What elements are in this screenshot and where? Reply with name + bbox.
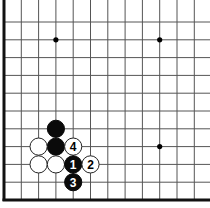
black-stone-circle — [47, 120, 64, 137]
white-stone — [30, 156, 47, 173]
white-stone — [47, 156, 64, 173]
black-stone-1: 1 — [65, 156, 82, 173]
move-number: 2 — [87, 158, 94, 172]
black-stone — [47, 120, 64, 137]
white-stone — [30, 138, 47, 155]
white-stone-4: 4 — [65, 138, 82, 155]
white-stone-circle — [30, 138, 47, 155]
star-point — [157, 144, 162, 149]
black-stone-3: 3 — [65, 174, 82, 191]
move-number: 4 — [70, 140, 77, 154]
move-number: 1 — [70, 158, 77, 172]
black-stone-circle — [47, 138, 64, 155]
go-board-diagram: 4123 — [0, 0, 210, 208]
move-number: 3 — [70, 176, 77, 190]
black-stone — [47, 138, 64, 155]
white-stone-circle — [47, 156, 64, 173]
white-stone-circle — [30, 156, 47, 173]
star-point — [157, 37, 162, 42]
white-stone-2: 2 — [82, 156, 99, 173]
stones: 4123 — [30, 120, 99, 191]
star-point — [53, 37, 58, 42]
go-board: 4123 — [0, 0, 210, 208]
